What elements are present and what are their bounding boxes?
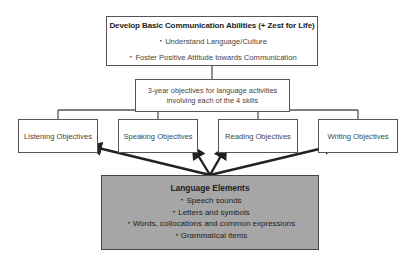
goal-title: Develop Basic Communication Abilities (+… xyxy=(107,21,317,30)
language-elements-box: Language Elements ・Speech sounds ・Letter… xyxy=(101,175,319,250)
speaking-label: Speaking Objectives xyxy=(123,132,192,141)
reading-label: Reading Objectives xyxy=(225,132,291,141)
goal-box: Develop Basic Communication Abilities (+… xyxy=(106,16,318,66)
three-year-objectives-text: 3-year objectives for language activitie… xyxy=(142,86,283,105)
three-year-objectives-box: 3-year objectives for language activitie… xyxy=(135,79,290,112)
language-element-item: ・Speech sounds xyxy=(102,195,318,207)
language-element-item: ・Letters and symbols xyxy=(102,207,318,219)
goal-item: ・Foster Positive Attitude towards Commun… xyxy=(107,51,317,62)
listening-objectives-box: Listening Objectives xyxy=(18,119,98,153)
listening-label: Listening Objectives xyxy=(24,132,92,141)
language-element-item: ・Words, collocations and common expressi… xyxy=(102,218,318,230)
goal-item: ・Understand Language/Culture xyxy=(107,35,317,46)
writing-label: Writing Objectives xyxy=(327,132,388,141)
language-elements-title: Language Elements xyxy=(102,183,318,193)
speaking-objectives-box: Speaking Objectives xyxy=(118,119,198,153)
language-element-item: ・Grammatical items xyxy=(102,230,318,242)
writing-objectives-box: Writing Objectives xyxy=(318,119,398,153)
reading-objectives-box: Reading Objectives xyxy=(218,119,298,153)
